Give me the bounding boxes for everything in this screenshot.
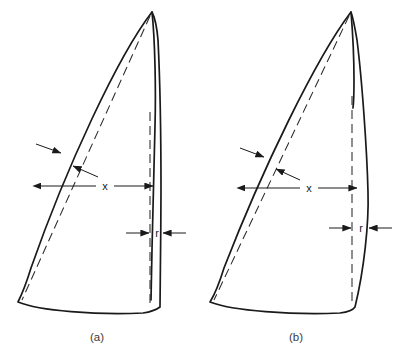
- luff-round-arrow-upper-b: [240, 148, 264, 157]
- dimension-label-r-b: r: [359, 222, 363, 234]
- caption-a: (a): [90, 331, 104, 343]
- panel-b: x r (b): [210, 12, 392, 343]
- panel-a: x r (a): [18, 12, 186, 343]
- dimension-label-x-b: x: [306, 182, 312, 194]
- caption-b: (b): [289, 331, 303, 343]
- dimension-label-r-a: r: [155, 227, 159, 239]
- sail-shape-figure: x r (a) x: [0, 0, 400, 353]
- luff-round-arrow-upper-a: [36, 144, 61, 153]
- dimension-label-x-a: x: [102, 180, 108, 192]
- figure-canvas: x r (a) x: [0, 0, 400, 353]
- sail-outline-b: [210, 12, 368, 314]
- sail-outline-a: [18, 12, 161, 314]
